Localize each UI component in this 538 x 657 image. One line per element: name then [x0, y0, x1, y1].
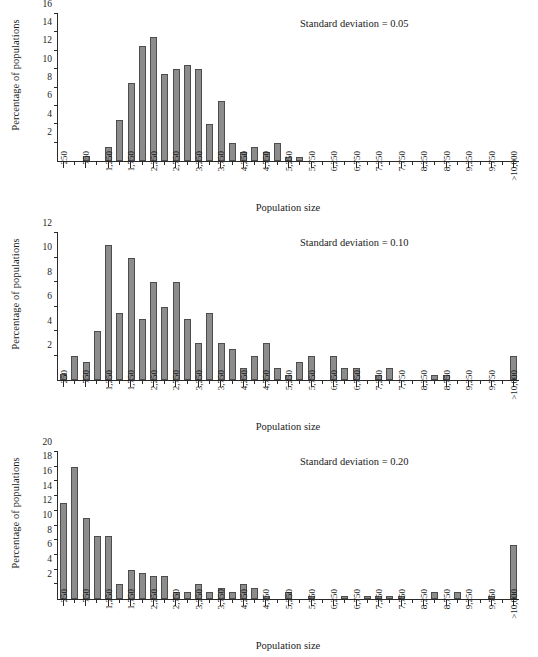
- histogram-bar: [173, 282, 180, 380]
- bar-slot: [216, 452, 227, 599]
- x-axis-minor-tick: [322, 381, 323, 384]
- x-axis-tick-label: 4,250: [243, 606, 252, 640]
- y-axis-tick: [54, 525, 58, 526]
- x-axis-tick-label: 1,250: [108, 387, 117, 421]
- histogram-bar: [341, 368, 348, 380]
- x-axis-tick-label: 9,250: [468, 606, 477, 640]
- y-axis-tick-label: 6: [47, 541, 52, 551]
- x-axis-tick-label: 3,250: [198, 387, 207, 421]
- y-axis-tick: [54, 257, 58, 258]
- bar-slot: [114, 233, 125, 380]
- bar-slot: [407, 233, 418, 380]
- y-axis-title: Percentage of populations: [10, 219, 24, 369]
- x-axis-tick-label: 5,750: [311, 168, 320, 202]
- bar-slot: [171, 233, 182, 380]
- y-axis-tick-label: 6: [47, 92, 52, 102]
- bar-slot: [463, 233, 474, 380]
- bar-slot: [249, 233, 260, 380]
- histogram-bar: [431, 592, 438, 599]
- bar-slot: [103, 233, 114, 380]
- histogram-bar: [229, 349, 236, 380]
- y-axis-tick-label: 14: [43, 18, 53, 28]
- histogram-bar: [150, 282, 157, 380]
- x-axis-minor-tick: [209, 162, 210, 165]
- bar-slot: [328, 233, 339, 380]
- x-axis-tick-label: 9,750: [491, 168, 500, 202]
- bar-slot: [497, 233, 508, 380]
- y-axis-tick-label: 20: [43, 438, 53, 448]
- histogram-bar: [128, 258, 135, 381]
- x-axis-minor-tick: [299, 381, 300, 384]
- x-axis-tick-label: 5,750: [311, 606, 320, 640]
- x-axis-tick-label: 3,250: [198, 606, 207, 640]
- y-axis-tick-label: 8: [47, 526, 52, 536]
- histogram-bar: [341, 596, 348, 599]
- x-axis-minor-tick: [254, 162, 255, 165]
- x-axis-minor-tick: [164, 600, 165, 603]
- x-axis-tick-label: 750: [85, 387, 94, 421]
- bar-slot: [69, 14, 80, 161]
- x-axis-tick-label: 7,750: [401, 606, 410, 640]
- bar-slot: [272, 233, 283, 380]
- x-axis-minor-tick: [322, 162, 323, 165]
- bar-slot: [238, 14, 249, 161]
- y-axis-tick-label: 8: [47, 268, 52, 278]
- y-axis-tick: [54, 355, 58, 356]
- histogram-bar: [206, 592, 213, 599]
- bar-slot: [339, 14, 350, 161]
- plot-area: 246810121416: [57, 14, 519, 162]
- x-axis-minor-tick: [119, 381, 120, 384]
- y-axis-tick: [54, 13, 58, 14]
- bar-slot: [407, 452, 418, 599]
- x-axis-labels: 2507501,2501,7502,2502,7503,2503,7504,25…: [57, 387, 519, 421]
- bar-slot: [204, 452, 215, 599]
- x-axis-tick-label: 5,250: [288, 606, 297, 640]
- bar-slot: [159, 233, 170, 380]
- bar-slot: [339, 233, 350, 380]
- x-axis-minor-tick: [187, 381, 188, 384]
- bar-slot: [137, 14, 148, 161]
- x-axis-minor-tick: [457, 381, 458, 384]
- y-axis-tick: [54, 50, 58, 51]
- plot-area: 2468101214161820: [57, 452, 519, 600]
- x-axis-tick-label: 4,750: [265, 168, 274, 202]
- bar-slot: [92, 233, 103, 380]
- y-axis-tick: [54, 330, 58, 331]
- x-axis-tick-label: 1,750: [130, 168, 139, 202]
- histogram-bar: [71, 356, 78, 381]
- bar-slot: [463, 452, 474, 599]
- histogram-bar: [116, 313, 123, 380]
- x-axis-minor-tick: [299, 162, 300, 165]
- x-axis-tick-label: 3,750: [220, 387, 229, 421]
- x-axis-minor-tick: [457, 600, 458, 603]
- bar-slot: [486, 452, 497, 599]
- x-axis-minor-tick: [254, 381, 255, 384]
- y-axis-tick-label: 10: [43, 511, 53, 521]
- bar-slot: [283, 233, 294, 380]
- x-axis-minor-tick: [74, 381, 75, 384]
- x-axis-minor-tick: [232, 600, 233, 603]
- histogram-bar: [184, 592, 191, 599]
- bar-slot: [238, 452, 249, 599]
- x-axis-title: Population size: [57, 640, 519, 651]
- bar-slot: [384, 233, 395, 380]
- bar-slot: [362, 452, 373, 599]
- bar-slot: [159, 14, 170, 161]
- x-axis-tick-label: 4,250: [243, 168, 252, 202]
- y-axis-title: Percentage of populations: [10, 438, 24, 588]
- x-axis-minor-tick: [142, 600, 143, 603]
- x-axis-tick-label: 1,250: [108, 168, 117, 202]
- histogram-bar: [431, 375, 438, 380]
- x-axis-minor-tick: [164, 381, 165, 384]
- bar-slot: [216, 14, 227, 161]
- bar-slot: [407, 14, 418, 161]
- bar-series: [58, 233, 519, 380]
- bar-slot: [238, 233, 249, 380]
- y-axis-tick-label: 10: [43, 55, 53, 65]
- bar-slot: [429, 452, 440, 599]
- x-axis-minor-tick: [480, 381, 481, 384]
- x-axis-tick-label: 5,250: [288, 168, 297, 202]
- bar-slot: [81, 233, 92, 380]
- histogram-bar: [139, 319, 146, 380]
- x-axis-minor-tick: [434, 600, 435, 603]
